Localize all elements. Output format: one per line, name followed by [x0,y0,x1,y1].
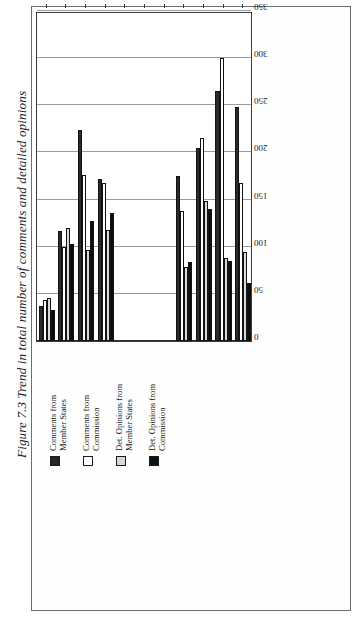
legend-item: Comments from Member States [48,350,68,466]
category-tick-mark [164,4,165,8]
bar [247,283,251,341]
category-tick-mark [223,4,224,8]
value-axis: 050100150200250300350 [254,12,280,342]
bar-group [135,13,155,341]
rotated-figure-stage: Comments from Member StatesComments from… [30,0,280,470]
legend-item-label: Comments from Member States [48,395,68,451]
bar-group [57,13,77,341]
category-tick-mark [242,4,243,8]
chart-area: Comments from Member StatesComments from… [30,0,280,470]
bar-group [116,13,136,341]
value-axis-tick-label: 50 [254,285,263,295]
category-tick-mark [203,4,204,8]
bar-group [233,13,253,341]
legend-item-label: Comments from Commission [81,395,101,451]
value-axis-tick-label: 250 [254,96,268,106]
category-tick-mark [85,4,86,8]
gridline [37,10,251,11]
bar-group [37,13,57,341]
category-tick-mark [46,4,47,8]
legend-swatch-icon [50,456,60,466]
legend-swatch-icon [149,456,159,466]
legend-item-label: Det. Opinions from Commission [147,384,167,451]
bar [70,244,74,341]
bar-group [155,13,175,341]
category-tick-mark [144,4,145,8]
value-axis-tick-label: 100 [254,238,268,248]
value-axis-tick-label: 350 [254,2,268,12]
value-axis-tick-label: 0 [254,332,259,342]
legend-item: Det. Opinions from Member States [114,350,134,466]
bar-group [174,13,194,341]
bar-group [76,13,96,341]
legend-swatch-icon [116,456,126,466]
value-axis-tick-label: 300 [254,49,268,59]
legend-item: Comments from Commission [81,350,101,466]
bar-groups [37,13,251,341]
legend-item-label: Det. Opinions from Member States [114,384,134,451]
category-tick-mark [124,4,125,8]
category-axis: 1988198919901991199219931994199519961997… [36,0,252,8]
bar-group [214,13,234,341]
legend-item: Det. Opinions from Commission [147,350,167,466]
bar [208,209,212,341]
bar [228,261,232,341]
bar [90,221,94,341]
value-axis-tick-label: 150 [254,191,268,201]
category-tick-mark [183,4,184,8]
legend-swatch-icon [83,456,93,466]
plot-frame [36,12,252,342]
bar-group [96,13,116,341]
bar [110,213,114,341]
figure-caption: Figure 7.3 Trend in total number of comm… [14,158,30,458]
bar-group [194,13,214,341]
chart-legend: Comments from Member StatesComments from… [48,350,180,466]
value-axis-tick-label: 200 [254,143,268,153]
category-tick-mark [105,4,106,8]
bar [188,262,192,341]
category-tick-mark [65,4,66,8]
bar [51,310,55,341]
